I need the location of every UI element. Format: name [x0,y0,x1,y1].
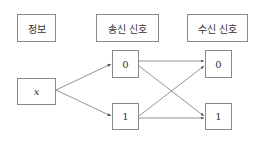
source-node-x: x [17,78,56,105]
sent-node-1-label: 1 [122,111,128,122]
edge-x-to-sent-1 [56,90,111,116]
header-info-box: 정보 [17,14,56,42]
header-received-signal-label: 수신 신호 [198,21,237,36]
header-received-signal-box: 수신 신호 [187,14,248,42]
source-node-label: x [34,86,40,97]
received-node-0: 0 [205,50,232,78]
edge-x-to-sent-0 [56,64,111,90]
received-node-0-label: 0 [215,59,221,70]
sent-node-0: 0 [112,50,139,78]
header-sent-signal-box: 송신 신호 [96,14,159,42]
header-info-label: 정보 [28,21,46,36]
received-node-1: 1 [205,103,232,130]
received-node-1-label: 1 [215,111,221,122]
sent-node-0-label: 0 [122,59,128,70]
sent-node-1: 1 [112,103,139,130]
header-sent-signal-label: 송신 신호 [108,21,147,36]
